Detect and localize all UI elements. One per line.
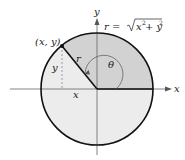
polar-coordinates-diagram: (x, y) r θ y x x y r = x 2 + y 2 — [0, 0, 185, 160]
y-axis-label: y — [93, 6, 100, 17]
formula-lhs: r = — [104, 21, 120, 32]
x-axis-arrow-icon — [165, 87, 172, 92]
point-label: (x, y) — [35, 36, 61, 47]
leg-x-label: x — [73, 89, 79, 100]
angle-label: θ — [108, 59, 114, 70]
formula-exp2: 2 — [159, 19, 163, 26]
radius-formula: r = x 2 + y 2 — [104, 19, 163, 32]
leg-y-label: y — [51, 62, 58, 73]
point-marker — [60, 44, 64, 48]
y-axis-arrow-icon — [95, 18, 100, 25]
x-axis-label: x — [174, 83, 180, 94]
